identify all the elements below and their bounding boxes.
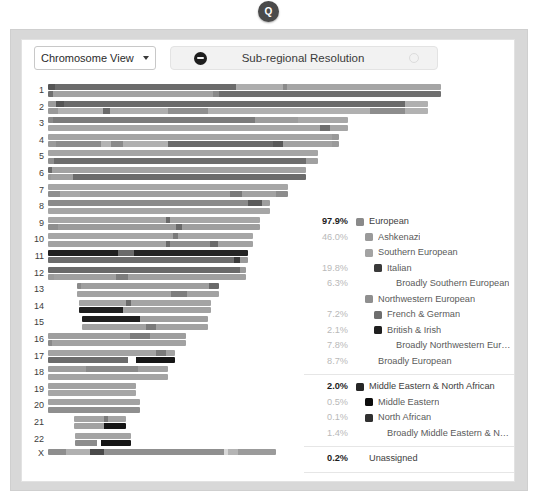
legend-row[interactable]: 46.0%Ashkenazi: [304, 230, 514, 246]
chromosome-strand[interactable]: [74, 423, 126, 429]
chromosome-label-15: 15: [22, 318, 44, 327]
chromosome-strand[interactable]: [74, 416, 126, 422]
legend-row[interactable]: 8.7%Broadly European: [304, 354, 514, 370]
legend-label: Northwestern European: [378, 292, 475, 308]
chromosome-strand[interactable]: [48, 449, 276, 455]
legend-label: Broadly Northwestern European: [396, 338, 514, 354]
legend-label: Middle Eastern: [378, 395, 439, 411]
ancestry-segment: [332, 134, 339, 140]
legend-label: Italian: [387, 261, 412, 277]
chromosome-strand[interactable]: [48, 150, 318, 156]
chromosome-label-3: 3: [22, 119, 44, 128]
ancestry-segment: [48, 200, 248, 206]
ancestry-segment: [53, 117, 255, 123]
chromosome-strand[interactable]: [48, 158, 318, 164]
ancestry-segment: [48, 399, 140, 405]
chromosome-label-7: 7: [22, 186, 44, 195]
chromosome-strand[interactable]: [79, 307, 211, 313]
chromosome-strand[interactable]: [79, 300, 211, 306]
chromosome-strand[interactable]: [82, 324, 208, 330]
legend-row[interactable]: 2.0%Middle Eastern & North African: [304, 379, 514, 395]
chromosome-strand[interactable]: [48, 383, 136, 389]
legend-row[interactable]: 2.1%British & Irish: [304, 323, 514, 339]
chromosome-strand[interactable]: [48, 233, 253, 239]
chromosome-strand[interactable]: [48, 357, 175, 363]
ancestry-segment: [166, 350, 175, 356]
chromosome-strand[interactable]: [75, 433, 131, 439]
chromosome-strand[interactable]: [75, 440, 131, 446]
chromosome-label-6: 6: [22, 169, 44, 178]
circle-outline-icon[interactable]: [409, 53, 419, 63]
legend-swatch-icon: [374, 264, 382, 272]
legend-row[interactable]: 1.4%Broadly Middle Eastern & North Afric…: [304, 426, 514, 442]
legend-row[interactable]: 100%: [304, 477, 514, 483]
chromosome-label-17: 17: [22, 352, 44, 361]
chromosome-strand[interactable]: [48, 241, 253, 247]
ancestry-segment: [82, 316, 140, 322]
chromosome-strand[interactable]: [48, 257, 248, 263]
legend-percent: 2.1%: [304, 323, 356, 339]
ancestry-segment: [104, 423, 126, 429]
chromosome-strand[interactable]: [48, 117, 348, 123]
legend-row[interactable]: 0.5%Middle Eastern: [304, 395, 514, 411]
chromosome-strand[interactable]: [48, 250, 248, 256]
ancestry-segment: [146, 324, 156, 330]
legend-row[interactable]: 97.9%European: [304, 214, 514, 230]
chromosome-strand[interactable]: [77, 291, 219, 297]
ancestry-segment: [101, 141, 111, 147]
chromosome-strand[interactable]: [48, 224, 260, 230]
legend-row[interactable]: 6.3%Broadly Southern European: [304, 276, 514, 292]
ancestry-segment: [48, 374, 168, 380]
chromosome-strand[interactable]: [48, 141, 339, 147]
chromosome-strand[interactable]: [48, 167, 306, 173]
legend-row[interactable]: 19.8%Italian: [304, 261, 514, 277]
quick-view-badge-icon[interactable]: Q: [258, 1, 279, 22]
ancestry-segment: [58, 108, 103, 114]
chromosome-strand[interactable]: [48, 374, 168, 380]
legend-row[interactable]: 0.2%Unassigned: [304, 451, 514, 467]
legend-row[interactable]: Southern European: [304, 245, 514, 261]
chromosome-strand[interactable]: [77, 283, 219, 289]
ancestry-segment: [240, 267, 246, 273]
legend-row[interactable]: Northwestern European: [304, 292, 514, 308]
chromosome-strand[interactable]: [48, 390, 136, 396]
chromosome-strand[interactable]: [48, 184, 288, 190]
chromosome-strand[interactable]: [48, 274, 246, 280]
chromosome-strand[interactable]: [48, 84, 441, 90]
legend-percent: 0.2%: [304, 451, 356, 467]
view-select[interactable]: Chromosome View: [34, 46, 156, 70]
ancestry-segment: [171, 291, 187, 297]
chromosome-strand[interactable]: [48, 333, 186, 339]
ancestry-segment: [306, 158, 318, 164]
ancestry-segment: [74, 416, 104, 422]
ancestry-segment: [79, 300, 126, 306]
chromosome-strand[interactable]: [48, 200, 270, 206]
legend-row[interactable]: 0.1%North African: [304, 410, 514, 426]
ancestry-segment: [116, 274, 128, 280]
chromosome-strand[interactable]: [48, 399, 140, 405]
chromosome-strand[interactable]: [48, 134, 339, 140]
chromosome-strand[interactable]: [48, 101, 428, 107]
chromosome-strand[interactable]: [48, 407, 140, 413]
chromosome-strand[interactable]: [48, 125, 348, 131]
legend-row[interactable]: 7.8%Broadly Northwestern European: [304, 338, 514, 354]
chromosome-strand[interactable]: [48, 191, 288, 197]
legend-row[interactable]: 7.2%French & German: [304, 307, 514, 323]
chromosome-strand[interactable]: [48, 174, 306, 180]
chromosome-strand[interactable]: [48, 217, 260, 223]
chromosome-strand[interactable]: [48, 267, 246, 273]
chromosome-strand[interactable]: [48, 366, 168, 372]
chromosome-strand[interactable]: [48, 340, 186, 346]
chromosome-strand[interactable]: [48, 108, 428, 114]
resolution-toggle[interactable]: Sub-regional Resolution: [170, 46, 438, 70]
chromosome-strand[interactable]: [48, 208, 270, 214]
outer-frame: Chromosome View Sub-regional Resolution …: [10, 29, 528, 491]
chromosome-strand[interactable]: [48, 350, 175, 356]
minus-circle-icon[interactable]: [194, 52, 207, 65]
chromosome-strand[interactable]: [48, 91, 441, 97]
ancestry-segment: [218, 241, 253, 247]
ancestry-segment: [81, 283, 209, 289]
ancestry-segment: [128, 274, 246, 280]
ancestry-segment: [370, 108, 405, 114]
chromosome-strand[interactable]: [82, 316, 208, 322]
